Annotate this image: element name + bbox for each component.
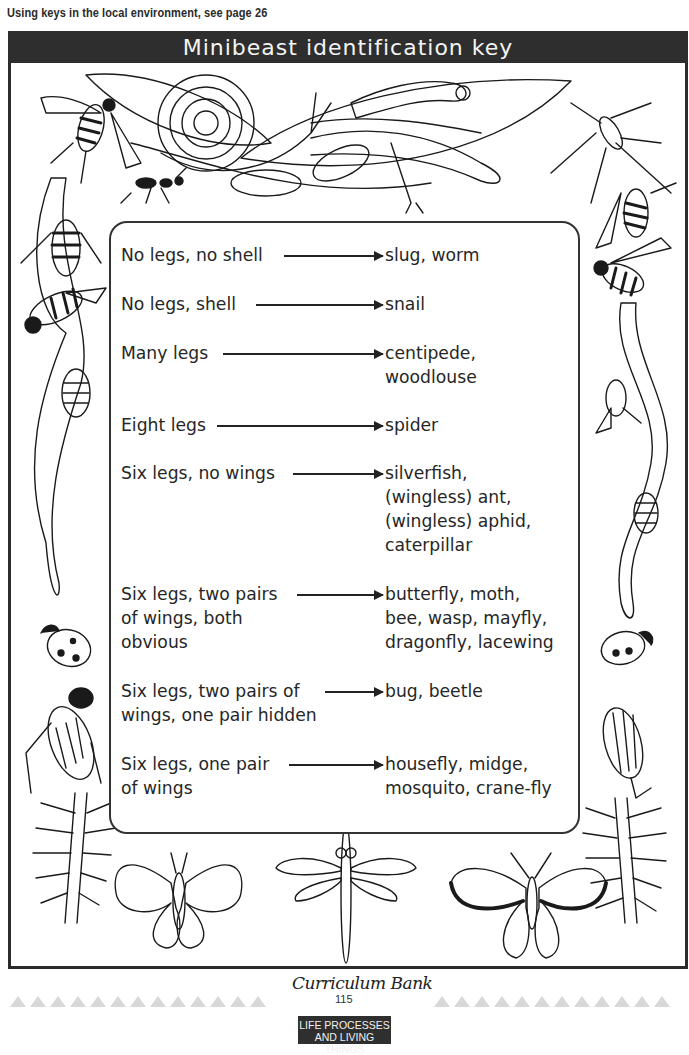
key-question: Six legs, one pair of wings: [121, 752, 269, 800]
key-question: Eight legs: [121, 413, 206, 437]
arrow-right-icon: [297, 594, 383, 596]
key-answer: slug, worm: [385, 243, 480, 267]
key-question: No legs, shell: [121, 292, 236, 316]
key-question: Six legs, two pairs of wings, both obvio…: [121, 582, 277, 654]
woodlouse-icon: [634, 493, 658, 533]
curriculum-bank-logo: Curriculum Bank: [292, 973, 432, 993]
ladybird-icon: [598, 627, 653, 669]
key-question: Six legs, two pairs of wings, one pair h…: [121, 679, 317, 727]
page-reference-note: Using keys in the local environment, see…: [7, 6, 267, 20]
moth-icon: [115, 853, 242, 948]
arrow-right-icon: [256, 304, 383, 306]
dragonfly-icon: [276, 823, 416, 963]
ant-icon: [121, 168, 186, 203]
click-beetle-icon: [596, 704, 651, 798]
key-answer: silverfish, (wingless) ant, (wingless) a…: [385, 461, 531, 557]
hoverfly-icon: [596, 183, 676, 248]
housefly-icon: [596, 380, 641, 433]
identification-key-box: No legs, no shell slug, worm No legs, sh…: [109, 221, 580, 834]
section-line-1: LIFE PROCESSES: [298, 1019, 391, 1031]
arrow-right-icon: [289, 764, 383, 766]
title-bar: Minibeast identification key: [8, 31, 688, 63]
arrow-right-icon: [284, 255, 383, 257]
triangle-border-left: [10, 996, 266, 1008]
woodlouse-icon: [62, 369, 90, 417]
bee-icon: [594, 238, 671, 298]
wasp-icon: [41, 97, 141, 183]
worm-icon: [619, 303, 667, 618]
key-question: Many legs: [121, 341, 208, 365]
key-question: No legs, no shell: [121, 243, 263, 267]
worm-icon: [35, 178, 85, 595]
key-answer: spider: [385, 413, 438, 437]
key-answer: snail: [385, 292, 425, 316]
arrow-right-icon: [217, 425, 383, 427]
ground-beetle-icon: [26, 688, 103, 793]
section-line-2: AND LIVING THINGS: [298, 1031, 391, 1055]
crane-fly-icon: [551, 103, 671, 203]
key-answer: housefly, midge, mosquito, crane-fly: [385, 752, 552, 800]
page-number: 115: [335, 993, 353, 1005]
triangle-border-right: [434, 996, 670, 1008]
wasp-icon: [25, 284, 106, 333]
ladybird-icon: [41, 624, 96, 673]
key-answer: butterfly, moth, bee, wasp, mayfly, drag…: [385, 582, 554, 654]
key-answer: bug, beetle: [385, 679, 483, 703]
arrow-right-icon: [293, 473, 383, 475]
key-question: Six legs, no wings: [121, 461, 275, 485]
arrow-right-icon: [325, 691, 383, 693]
key-answer: centipede, woodlouse: [385, 341, 477, 389]
arrow-right-icon: [223, 353, 383, 355]
page-title: Minibeast identification key: [183, 35, 514, 60]
bee-icon: [21, 220, 101, 276]
centipede-icon: [33, 793, 116, 923]
butterfly-icon: [451, 853, 606, 958]
section-badge: LIFE PROCESSES AND LIVING THINGS: [298, 1016, 391, 1044]
worm-icon: [311, 131, 500, 213]
